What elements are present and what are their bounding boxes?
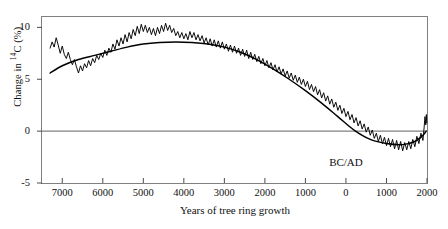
plot-area (0, 0, 448, 229)
x-axis-title-text: Years of tree ring growth (180, 204, 290, 216)
chart-figure: Change in 14C (%) 1050-5 700060005000400… (0, 0, 448, 229)
plot-frame (42, 17, 428, 184)
data-line-trend (50, 42, 426, 145)
data-line-measured (50, 23, 427, 151)
x-axis-title: Years of tree ring growth (0, 204, 448, 216)
axes-frame (42, 17, 428, 184)
